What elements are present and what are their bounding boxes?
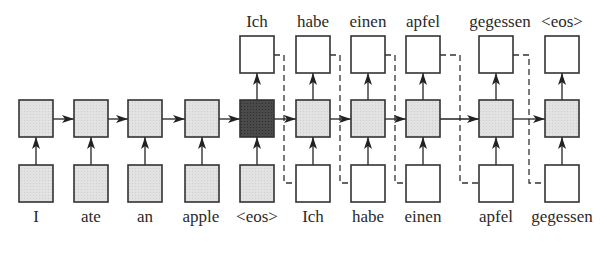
top-labels: Ich habe einen apfel gegessen <eos>	[246, 12, 583, 31]
decoder-input-box	[351, 165, 385, 202]
decoder-hidden-box	[406, 100, 440, 137]
encoder-hidden-box	[185, 100, 219, 137]
decoder-input-box	[296, 165, 330, 202]
decoder-hidden-box	[351, 100, 385, 137]
decoder-hidden-box	[296, 100, 330, 137]
bottom-labels: I ate an apple <eos> Ich habe einen apfe…	[33, 207, 593, 226]
bottom-label: ate	[81, 207, 101, 226]
bottom-label: I	[33, 207, 39, 226]
decoder-input-box	[479, 165, 513, 202]
top-label: gegessen	[469, 12, 531, 31]
top-label: einen	[350, 12, 387, 31]
bottom-label: <eos>	[236, 207, 278, 226]
encoder-input-box	[74, 165, 108, 202]
decoder-hidden-box	[479, 100, 513, 137]
bottom-label: apple	[183, 207, 220, 226]
encoder-input-box	[128, 165, 162, 202]
decoder-input-box	[545, 165, 579, 202]
output-box	[406, 36, 440, 73]
top-label: habe	[297, 12, 329, 31]
input-to-hidden-edges	[36, 137, 562, 165]
output-box	[479, 36, 513, 73]
encoder-input-box	[185, 165, 219, 202]
encoder-input-box	[240, 165, 274, 202]
output-box	[296, 36, 330, 73]
output-box	[240, 36, 274, 73]
seq2seq-diagram: Ich habe einen apfel gegessen <eos> I at…	[0, 0, 607, 253]
bottom-label: gegessen	[531, 207, 593, 226]
output-box	[545, 36, 579, 73]
bottom-label: apfel	[479, 207, 513, 226]
encoder-input-box	[19, 165, 53, 202]
bottom-label: Ich	[302, 207, 324, 226]
decoder-input-box	[406, 165, 440, 202]
encoder-hidden-box	[128, 100, 162, 137]
hidden-state-boxes	[19, 100, 579, 137]
encoder-hidden-box	[19, 100, 53, 137]
context-vector-box	[240, 100, 274, 137]
hidden-to-output-edges	[257, 73, 562, 100]
input-boxes	[19, 165, 579, 202]
bottom-label: an	[137, 207, 154, 226]
top-label: <eos>	[541, 12, 583, 31]
bottom-label: habe	[352, 207, 384, 226]
top-label: apfel	[406, 12, 440, 31]
encoder-hidden-box	[74, 100, 108, 137]
bottom-label: einen	[405, 207, 442, 226]
top-label: Ich	[246, 12, 268, 31]
decoder-hidden-box	[545, 100, 579, 137]
output-box	[351, 36, 385, 73]
